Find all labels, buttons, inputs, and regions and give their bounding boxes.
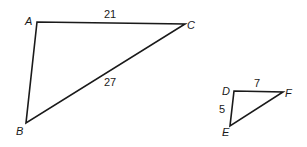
- vertex-label-b: B: [16, 125, 23, 137]
- side-label-ac: 21: [104, 8, 116, 20]
- triangle-def: [230, 91, 283, 126]
- similar-triangles-diagram: A C B 21 27 D F E 7 5: [0, 0, 307, 147]
- vertex-label-d: D: [222, 85, 230, 97]
- vertex-label-e: E: [222, 126, 230, 138]
- vertex-label-f: F: [285, 87, 293, 99]
- triangle-abc: [26, 22, 185, 123]
- side-label-de: 5: [219, 103, 225, 115]
- side-label-df: 7: [254, 77, 260, 89]
- vertex-label-a: A: [24, 15, 32, 27]
- vertex-label-c: C: [187, 19, 195, 31]
- side-label-bc: 27: [104, 76, 116, 88]
